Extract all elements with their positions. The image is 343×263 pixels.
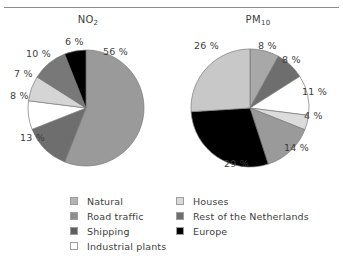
chart-title-pm10: PM10 [178, 14, 338, 25]
pie-percent-label: 6 % [65, 36, 84, 47]
chart-title-no2-main: NO [78, 14, 94, 25]
pie-percent-label: 29 % [224, 158, 249, 169]
legend-item-label: Houses [193, 196, 229, 207]
legend-swatch-icon [70, 227, 78, 235]
top-divider [4, 7, 339, 8]
legend-item-label: Industrial plants [87, 241, 166, 252]
pie-percent-label: 8 % [258, 40, 277, 51]
pie-percent-label: 8 % [282, 54, 301, 65]
legend-column-1: NaturalRoad trafficShippingIndustrial pl… [70, 194, 166, 254]
legend-item[interactable]: Industrial plants [70, 239, 166, 253]
legend-swatch-icon [70, 242, 78, 250]
legend-item[interactable]: Europe [176, 224, 309, 238]
chart-panel-no2: NO2 56 %6 %10 %7 %8 %13 % [8, 14, 168, 189]
legend-item[interactable]: Houses [176, 194, 309, 208]
legend-item-label: Road traffic [87, 211, 144, 222]
pie-wrap-no2: 56 %6 %10 %7 %8 %13 % [8, 36, 168, 188]
pie-wrap-pm10: 8 %8 %11 %4 %14 %29 %26 % [178, 36, 338, 188]
pie-percent-label: 11 % [302, 86, 327, 97]
legend-item-label: Rest of the Netherlands [193, 211, 309, 222]
pie-slice [191, 49, 250, 112]
chart-title-pm10-main: PM [246, 14, 261, 25]
legend-swatch-icon [176, 227, 184, 235]
figure-root: NO2 56 %6 %10 %7 %8 %13 % PM10 8 %8 %11 … [0, 0, 343, 263]
legend-item[interactable]: Rest of the Netherlands [176, 209, 309, 223]
pie-percent-label: 4 % [304, 110, 323, 121]
legend-item-label: Europe [193, 226, 227, 237]
legend-item-label: Natural [87, 196, 123, 207]
legend-swatch-icon [176, 212, 184, 220]
pie-percent-label: 56 % [103, 46, 128, 57]
chart-title-no2: NO2 [8, 14, 168, 25]
legend-item-label: Shipping [87, 226, 130, 237]
chart-title-no2-sub: 2 [94, 19, 99, 27]
legend-item[interactable]: Shipping [70, 224, 166, 238]
legend-item[interactable]: Road traffic [70, 209, 166, 223]
legend-swatch-icon [70, 212, 78, 220]
legend-item[interactable]: Natural [70, 194, 166, 208]
legend-column-2: HousesRest of the NetherlandsEurope [176, 194, 309, 239]
chart-panel-pm10: PM10 8 %8 %11 %4 %14 %29 %26 % [178, 14, 338, 189]
chart-title-pm10-sub: 10 [261, 19, 271, 27]
pie-percent-label: 14 % [284, 142, 309, 153]
pie-percent-label: 26 % [194, 40, 219, 51]
legend-swatch-icon [70, 197, 78, 205]
pie-percent-label: 7 % [14, 68, 33, 79]
pie-percent-label: 8 % [10, 90, 29, 101]
pie-percent-label: 13 % [20, 132, 45, 143]
legend-swatch-icon [176, 197, 184, 205]
chart-legend: NaturalRoad trafficShippingIndustrial pl… [70, 194, 340, 256]
pie-percent-label: 10 % [26, 48, 51, 59]
